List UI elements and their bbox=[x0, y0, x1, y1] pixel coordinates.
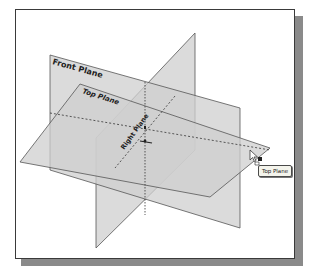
plane-tooltip: Top Plane bbox=[258, 165, 292, 177]
planes-scene: Front Plane Top Plane Right Plane bbox=[0, 0, 310, 273]
origin-axis-y bbox=[144, 126, 146, 129]
